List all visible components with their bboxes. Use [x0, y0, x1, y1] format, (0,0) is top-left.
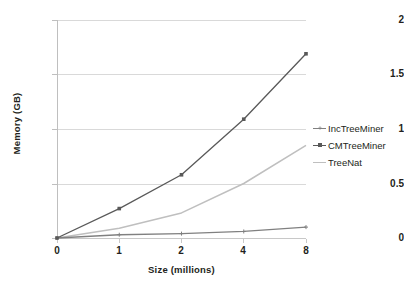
y-tick-mark-0-5 [52, 184, 57, 185]
legend-marker-plus-icon [313, 124, 326, 134]
x-tick-mark-0 [57, 239, 58, 243]
legend-marker-line-icon [313, 158, 326, 168]
plus-marker-icon [318, 126, 322, 130]
y-tick-mark-1 [52, 129, 57, 130]
gridline-0-5 [57, 184, 306, 185]
x-tick-label-1: 1 [104, 246, 134, 256]
legend-label-inctreeminer: IncTreeMiner [328, 124, 384, 134]
legend-marker-square-icon [313, 141, 326, 151]
y-tick-mark-1-5 [52, 74, 57, 75]
y-tick-label-0-5: 0.5 [360, 179, 404, 189]
gridline-2 [57, 20, 306, 21]
y-tick-mark-2 [52, 20, 57, 21]
x-tick-label-0: 0 [42, 246, 72, 256]
x-tick-mark-8 [306, 239, 307, 243]
x-tick-mark-4 [243, 239, 244, 243]
gridline-1 [57, 129, 306, 130]
x-tick-label-4: 4 [228, 246, 258, 256]
memory-usage-line-chart: 2 1.5 1 0.5 0 0 1 2 4 8 Size (millions) … [0, 0, 404, 288]
y-tick-label-0: 0 [360, 233, 404, 243]
y-axis-line [57, 20, 58, 239]
y-tick-label-1-5: 1.5 [360, 69, 404, 79]
legend-item-cmtreeminer[interactable]: CMTreeMiner [313, 137, 404, 154]
x-tick-label-8: 8 [291, 246, 321, 256]
x-tick-mark-1 [119, 239, 120, 243]
x-tick-mark-2 [181, 239, 182, 243]
y-axis-title: Memory (GB) [11, 64, 22, 184]
legend-item-treenat[interactable]: TreeNat [313, 154, 404, 171]
legend-label-cmtreeminer: CMTreeMiner [328, 141, 386, 151]
legend: IncTreeMiner CMTreeMiner TreeNat [313, 120, 404, 171]
gridline-1-5 [57, 74, 306, 75]
x-tick-label-2: 2 [166, 246, 196, 256]
y-tick-label-2: 2 [360, 15, 404, 25]
legend-item-inctreeminer[interactable]: IncTreeMiner [313, 120, 404, 137]
legend-label-treenat: TreeNat [328, 158, 362, 168]
x-axis-title: Size (millions) [57, 264, 306, 275]
square-marker-icon [318, 143, 322, 147]
